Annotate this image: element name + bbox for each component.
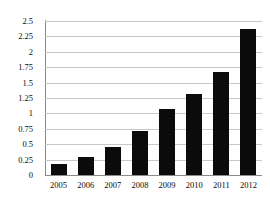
- y-tick-label: 2: [29, 48, 33, 57]
- x-tick-label: 2005: [50, 181, 67, 190]
- x-tick-label: 2008: [131, 181, 148, 190]
- y-tick-label: 1.25: [18, 94, 33, 103]
- y-tick-label: 2.25: [18, 32, 33, 41]
- x-tick-label: 2011: [213, 181, 230, 190]
- y-tick-label: 1.5: [22, 79, 33, 88]
- y-tick-label: 0.5: [22, 140, 33, 149]
- bar: [186, 94, 202, 175]
- bar-slot: [45, 21, 72, 175]
- bar-slot: [99, 21, 126, 175]
- bar-slot: [235, 21, 262, 175]
- bar-chart: 00.250.50.7511.251.51.7522.252.5 2005200…: [0, 0, 270, 198]
- bar: [51, 164, 67, 175]
- x-tick-label: 2009: [159, 181, 176, 190]
- bar-slot: [154, 21, 181, 175]
- y-tick-label: 1.75: [18, 63, 33, 72]
- y-axis-tick-labels: 00.250.50.7511.251.51.7522.252.5: [0, 0, 41, 198]
- y-tick-label: 0.25: [18, 156, 33, 165]
- bar: [213, 72, 229, 175]
- x-axis-tick-labels: 20052006200720082009201020112012: [45, 179, 262, 195]
- x-tick-label: 2006: [77, 181, 94, 190]
- bar: [240, 29, 256, 175]
- y-tick-label: 2.5: [22, 17, 33, 26]
- x-tick-label: 2010: [186, 181, 203, 190]
- bar-series: [45, 21, 262, 175]
- x-axis-baseline: [45, 175, 262, 176]
- x-tick-label: 2012: [240, 181, 257, 190]
- bar-slot: [126, 21, 153, 175]
- y-tick-label: 0.75: [18, 125, 33, 134]
- bar: [78, 157, 94, 175]
- y-tick-label: 0: [29, 171, 33, 180]
- bar-slot: [72, 21, 99, 175]
- bar: [105, 147, 121, 175]
- bar-slot: [181, 21, 208, 175]
- bar: [132, 131, 148, 175]
- x-tick-label: 2007: [104, 181, 121, 190]
- bar: [159, 109, 175, 175]
- bar-slot: [208, 21, 235, 175]
- y-tick-label: 1: [29, 109, 33, 118]
